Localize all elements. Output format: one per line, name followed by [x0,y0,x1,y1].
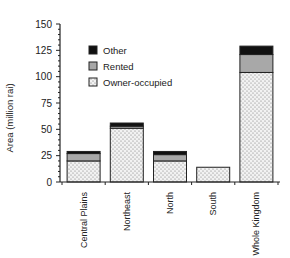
y-axis-title: Area (million rai) [4,83,15,152]
legend-label: Owner-occupied [103,77,172,88]
bar-central-plains [67,151,100,182]
bar-segment-owner-occupied [154,161,187,182]
bar-north [154,151,187,182]
bar-segment-owner-occupied [67,161,100,182]
x-axis: Central PlainsNortheastNorthSouthWhole K… [60,182,280,256]
legend-label: Other [103,45,127,56]
x-category-label: North [165,192,175,214]
legend-swatch-owner-occupied [89,78,97,86]
y-tick-label: 100 [35,71,52,82]
y-tick-label: 0 [46,177,52,188]
bar-segment-other [240,46,273,54]
y-tick-label: 125 [35,45,52,56]
bar-segment-other [67,151,100,153]
y-tick-label: 25 [41,150,53,161]
bar-segment-rented [154,155,187,161]
legend: OtherRentedOwner-occupied [89,45,172,88]
bar-segment-other [110,123,143,126]
bar-segment-owner-occupied [110,128,143,182]
bar-segment-other [154,151,187,154]
x-category-label: Whole Kingdom [251,192,261,256]
y-tick-label: 150 [35,19,52,30]
bar-south [197,167,230,182]
x-category-label: South [208,192,218,216]
y-tick-label: 75 [41,98,53,109]
bar-segment-owner-occupied [240,72,273,182]
bars [67,46,273,182]
stacked-bar-chart: 0255075100125150 Central PlainsNortheast… [0,0,290,258]
bar-northeast [110,123,143,182]
y-tick-label: 50 [41,124,53,135]
legend-swatch-rented [89,62,97,70]
legend-label: Rented [103,61,134,72]
bar-segment-rented [67,154,100,161]
x-category-label: Northeast [122,192,132,232]
bar-whole-kingdom [240,46,273,182]
x-category-label: Central Plains [79,192,89,249]
y-axis: 0255075100125150 [35,19,60,188]
bar-segment-rented [240,55,273,73]
legend-swatch-other [89,46,97,54]
bar-segment-owner-occupied [197,167,230,182]
